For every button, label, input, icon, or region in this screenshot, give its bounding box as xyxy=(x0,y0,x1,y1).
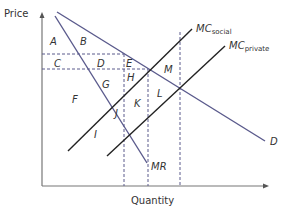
x-axis-label: Quantity xyxy=(131,195,174,206)
area-e-label: E xyxy=(126,58,133,69)
area-c-label: C xyxy=(54,58,61,69)
area-a-label: A xyxy=(49,36,57,47)
area-l-label: L xyxy=(157,88,163,99)
demand-curve xyxy=(57,12,265,141)
mc-private-curve xyxy=(107,46,225,156)
area-k-label: K xyxy=(134,98,142,109)
area-d-label: D xyxy=(97,58,105,69)
x-axis-arrow-icon xyxy=(263,184,269,189)
mc-social-curve xyxy=(68,29,192,151)
area-b-label: B xyxy=(80,36,87,47)
area-f-label: F xyxy=(72,94,78,105)
demand-label: D xyxy=(270,136,278,147)
area-m-label: M xyxy=(164,64,173,75)
marginal-revenue-curve xyxy=(55,16,147,163)
y-axis-arrow-icon xyxy=(40,12,45,18)
mr-label: MR xyxy=(151,161,167,172)
mc-social-label: MCsocial xyxy=(196,23,232,36)
externality-monopoly-diagram: Price Quantity D MR MCsocial MCprivate A… xyxy=(0,0,288,211)
area-i-label: I xyxy=(94,129,97,140)
area-g-label: G xyxy=(102,79,110,90)
area-h-label: H xyxy=(127,72,135,83)
y-axis-label: Price xyxy=(4,8,28,19)
mc-private-label: MCprivate xyxy=(229,40,269,53)
